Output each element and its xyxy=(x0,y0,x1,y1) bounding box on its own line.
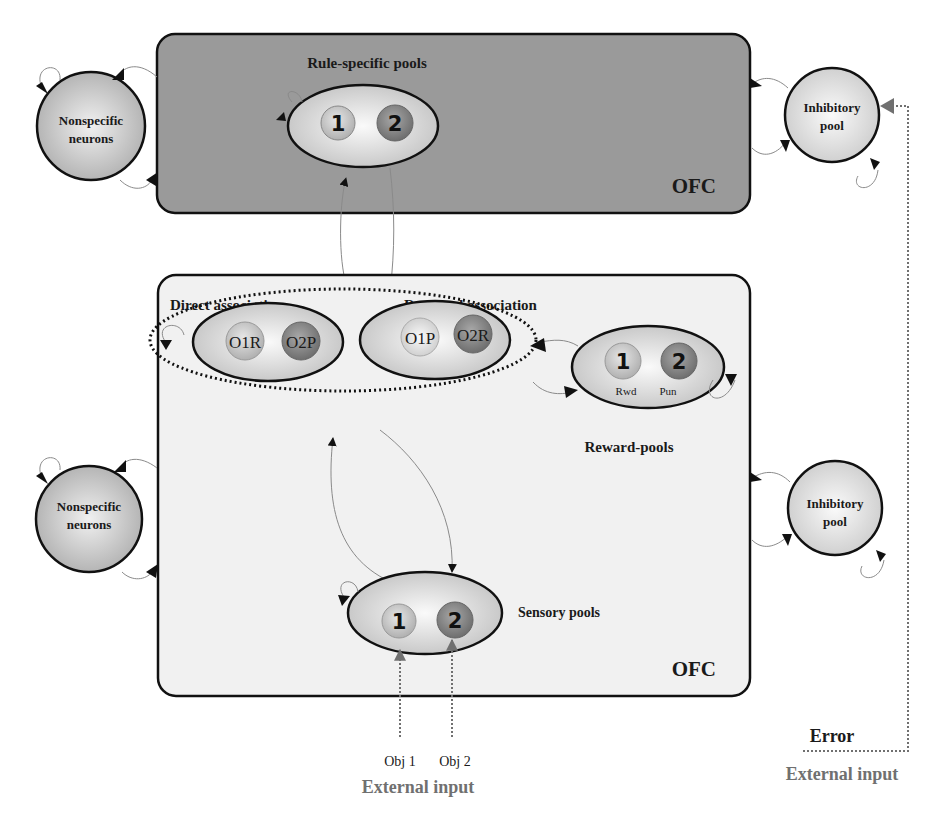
svg-text:1: 1 xyxy=(331,112,346,136)
sensory-external-input-label: External input xyxy=(362,777,475,797)
obj1-label: Obj 1 xyxy=(384,754,416,769)
network-diagram: Rule-specific pools OFC 1 2 Nonspecific … xyxy=(0,0,936,821)
pool-o2r: O2R xyxy=(457,326,490,345)
lower-ofc-module: OFC Direct association Reversed associat… xyxy=(150,275,750,696)
direct-association-ellipse: O1R O2P xyxy=(193,303,343,381)
arrowhead-icon xyxy=(780,140,790,152)
arrowhead-icon xyxy=(876,550,886,562)
lower-inhibitory-pool: Inhibitory pool xyxy=(750,461,886,578)
upper-ofc-module: Rule-specific pools OFC 1 2 xyxy=(157,34,750,213)
svg-text:pool: pool xyxy=(820,118,844,133)
svg-text:neurons: neurons xyxy=(69,131,114,146)
sensory-pools-title: Sensory pools xyxy=(518,605,601,620)
svg-text:neurons: neurons xyxy=(67,517,112,532)
reversed-association-ellipse: O1P O2R xyxy=(360,301,510,379)
reward-pools-title: Reward-pools xyxy=(584,439,673,455)
arrowhead-icon xyxy=(750,472,762,482)
sensory-pools-ellipse: 1 2 xyxy=(348,572,502,654)
upper-inhibitory-pool: Inhibitory pool xyxy=(750,68,880,188)
pool-o1r: O1R xyxy=(229,333,262,352)
arrowhead-icon xyxy=(880,98,894,114)
rule-specific-pool-ellipse: 1 2 xyxy=(288,85,438,167)
error-input-path xyxy=(803,106,908,751)
error-external-input: Error External input xyxy=(786,98,908,784)
arrowhead-icon xyxy=(146,172,158,186)
pool-o1p: O1P xyxy=(405,329,435,348)
upper-nonspecific-neurons: Nonspecific neurons xyxy=(36,67,158,189)
rule-specific-title: Rule-specific pools xyxy=(307,55,427,71)
sensory-pool-1: 1 xyxy=(392,610,407,634)
reward-label-pun: Pun xyxy=(659,385,677,397)
arrowhead-icon xyxy=(36,472,48,484)
reward-pool-2: 2 xyxy=(672,350,687,374)
arrowhead-icon xyxy=(112,68,124,80)
arrowhead-icon xyxy=(36,82,48,94)
arrowhead-icon xyxy=(114,460,126,472)
arrowhead-icon xyxy=(870,158,880,170)
upper-ofc-box xyxy=(157,34,750,213)
error-external-input-label: External input xyxy=(786,764,899,784)
svg-text:2: 2 xyxy=(388,112,403,136)
lower-ofc-label: OFC xyxy=(672,657,716,681)
svg-text:Inhibitory: Inhibitory xyxy=(803,100,861,115)
diagram-canvas: Rule-specific pools OFC 1 2 Nonspecific … xyxy=(0,0,936,821)
svg-text:Inhibitory: Inhibitory xyxy=(806,496,864,511)
lower-nonspecific-neurons: Nonspecific neurons xyxy=(36,458,158,579)
sensory-pool-2: 2 xyxy=(448,609,463,633)
reward-label-rwd: Rwd xyxy=(616,385,637,397)
svg-text:Nonspecific: Nonspecific xyxy=(57,499,122,514)
error-label: Error xyxy=(810,726,855,746)
svg-text:Nonspecific: Nonspecific xyxy=(59,113,124,128)
svg-text:pool: pool xyxy=(823,514,847,529)
obj2-label: Obj 2 xyxy=(439,754,471,769)
upper-ofc-label: OFC xyxy=(672,174,716,198)
reward-pools-ellipse: 1 2 Rwd Pun xyxy=(572,326,724,408)
pool-o2p: O2P xyxy=(286,333,316,352)
reward-pool-1: 1 xyxy=(616,350,631,374)
